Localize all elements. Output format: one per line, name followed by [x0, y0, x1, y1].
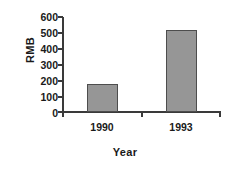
y-tick-mark-500 [58, 32, 63, 34]
y-tick-mark-200 [58, 80, 63, 82]
x-tick-mark-middle [141, 112, 143, 117]
y-tick-label-200: 200 [28, 76, 58, 86]
y-tick-label-500: 500 [28, 28, 58, 38]
x-axis-title: Year [0, 146, 250, 158]
y-tick-mark-300 [58, 64, 63, 66]
y-tick-label-400: 400 [28, 44, 58, 54]
y-tick-mark-100 [58, 96, 63, 98]
y-tick-label-100: 100 [28, 92, 58, 102]
bar-1990 [87, 84, 118, 113]
x-tick-mark-end [219, 112, 221, 117]
y-axis-tick-labels: 600 500 400 300 200 100 0 [27, 0, 58, 170]
bar-chart: RMB 600 500 400 300 200 100 0 1990 1993 … [0, 0, 250, 170]
bar-1993 [166, 30, 197, 112]
x-category-label-1993: 1993 [151, 121, 211, 133]
y-tick-label-600: 600 [28, 12, 58, 22]
x-tick-mark-start [62, 112, 64, 117]
x-category-label-1990: 1990 [72, 121, 132, 133]
y-tick-label-0: 0 [28, 108, 58, 118]
y-tick-label-300: 300 [28, 60, 58, 70]
y-tick-mark-600 [58, 16, 63, 18]
y-tick-mark-400 [58, 48, 63, 50]
